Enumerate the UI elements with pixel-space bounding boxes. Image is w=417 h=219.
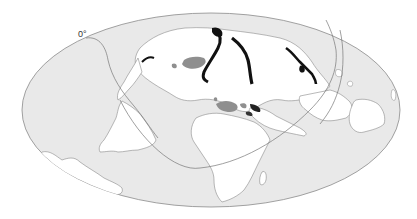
world-map: [0, 0, 417, 219]
meridian-label: 0°: [78, 29, 87, 39]
